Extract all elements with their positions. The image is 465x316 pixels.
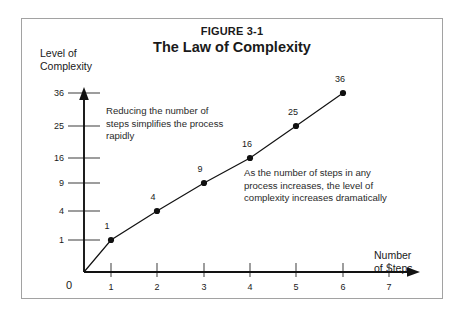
data-point-label-5: 25 [288,107,298,117]
x-tick-label-6: 6 [340,282,345,292]
data-point-label-1: 1 [104,221,109,231]
series-complexity: 1 4 9 16 25 36 [84,74,346,272]
y-tick-label-25: 25 [54,121,64,131]
x-tick-label-2: 2 [154,282,159,292]
data-point-6 [340,90,346,96]
x-axis-ticks: 1 2 3 4 5 6 7 [108,263,391,292]
y-tick-label-16: 16 [54,153,64,163]
plot-area: 36 25 16 9 4 1 1 2 3 4 5 6 7 [22,19,444,300]
x-tick-label-7: 7 [386,282,391,292]
figure-frame: FIGURE 3-1 The Law of Complexity Level o… [21,18,443,299]
series-polyline [84,93,343,272]
origin-label: 0 [66,279,72,291]
data-point-label-6: 36 [335,74,345,84]
data-point-4 [247,155,253,161]
x-tick-label-3: 3 [201,282,206,292]
data-point-label-4: 16 [242,139,252,149]
x-axis-arrowhead [407,267,420,277]
data-point-1 [108,237,114,243]
y-tick-label-9: 9 [59,178,64,188]
data-point-label-3: 9 [197,164,202,174]
data-point-3 [201,180,207,186]
y-axis-ticks: 36 25 16 9 4 1 [54,88,100,245]
data-point-2 [154,208,160,214]
x-tick-label-5: 5 [293,282,298,292]
axis-lines [79,87,420,277]
data-point-5 [293,123,299,129]
data-point-label-2: 4 [150,192,155,202]
y-tick-label-1: 1 [59,235,64,245]
y-tick-label-36: 36 [54,88,64,98]
x-tick-label-4: 4 [247,282,252,292]
y-tick-label-4: 4 [59,206,64,216]
x-tick-label-1: 1 [108,282,113,292]
